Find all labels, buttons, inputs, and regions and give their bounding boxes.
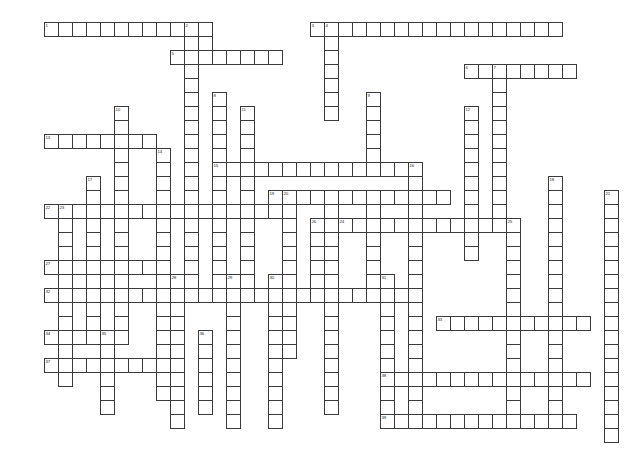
crossword-cell[interactable]: [198, 288, 213, 303]
crossword-cell[interactable]: [184, 232, 199, 247]
crossword-cell[interactable]: [408, 274, 423, 289]
crossword-cell[interactable]: [548, 260, 563, 275]
crossword-cell[interactable]: [464, 106, 479, 121]
crossword-cell[interactable]: [478, 372, 493, 387]
crossword-cell[interactable]: [114, 162, 129, 177]
crossword-cell[interactable]: [324, 316, 339, 331]
crossword-cell[interactable]: [380, 344, 395, 359]
crossword-cell[interactable]: [324, 260, 339, 275]
crossword-cell[interactable]: [380, 316, 395, 331]
crossword-cell[interactable]: [422, 372, 437, 387]
crossword-cell[interactable]: [44, 204, 59, 219]
crossword-cell[interactable]: [212, 218, 227, 233]
crossword-cell[interactable]: [478, 64, 493, 79]
crossword-cell[interactable]: [534, 414, 549, 429]
crossword-cell[interactable]: [492, 64, 507, 79]
crossword-cell[interactable]: [156, 190, 171, 205]
crossword-cell[interactable]: [422, 22, 437, 37]
crossword-cell[interactable]: [478, 414, 493, 429]
crossword-cell[interactable]: [58, 316, 73, 331]
crossword-cell[interactable]: [380, 400, 395, 415]
crossword-cell[interactable]: [240, 218, 255, 233]
crossword-cell[interactable]: [212, 274, 227, 289]
crossword-cell[interactable]: [142, 134, 157, 149]
crossword-cell[interactable]: [114, 218, 129, 233]
crossword-cell[interactable]: [212, 176, 227, 191]
crossword-cell[interactable]: [128, 134, 143, 149]
crossword-cell[interactable]: [366, 274, 381, 289]
crossword-cell[interactable]: [296, 190, 311, 205]
crossword-cell[interactable]: [464, 316, 479, 331]
crossword-cell[interactable]: [492, 134, 507, 149]
crossword-cell[interactable]: [464, 148, 479, 163]
crossword-cell[interactable]: [506, 358, 521, 373]
crossword-cell[interactable]: [240, 120, 255, 135]
crossword-cell[interactable]: [58, 246, 73, 261]
crossword-cell[interactable]: [114, 330, 129, 345]
crossword-cell[interactable]: [492, 120, 507, 135]
crossword-cell[interactable]: [240, 274, 255, 289]
crossword-cell[interactable]: [492, 316, 507, 331]
crossword-cell[interactable]: [548, 204, 563, 219]
crossword-cell[interactable]: [492, 92, 507, 107]
crossword-cell[interactable]: [184, 162, 199, 177]
crossword-cell[interactable]: [604, 246, 619, 261]
crossword-cell[interactable]: [142, 22, 157, 37]
crossword-cell[interactable]: [534, 316, 549, 331]
crossword-cell[interactable]: [86, 358, 101, 373]
crossword-cell[interactable]: [604, 386, 619, 401]
crossword-cell[interactable]: [352, 288, 367, 303]
crossword-cell[interactable]: [212, 148, 227, 163]
crossword-cell[interactable]: [492, 372, 507, 387]
crossword-cell[interactable]: [408, 302, 423, 317]
crossword-cell[interactable]: [282, 344, 297, 359]
crossword-cell[interactable]: [506, 22, 521, 37]
crossword-cell[interactable]: [394, 288, 409, 303]
crossword-cell[interactable]: [450, 218, 465, 233]
crossword-cell[interactable]: [366, 22, 381, 37]
crossword-cell[interactable]: [324, 288, 339, 303]
crossword-cell[interactable]: [576, 316, 591, 331]
crossword-cell[interactable]: [380, 162, 395, 177]
crossword-cell[interactable]: [170, 204, 185, 219]
crossword-cell[interactable]: [226, 50, 241, 65]
crossword-cell[interactable]: [450, 372, 465, 387]
crossword-cell[interactable]: [296, 162, 311, 177]
crossword-cell[interactable]: [240, 134, 255, 149]
crossword-cell[interactable]: [254, 288, 269, 303]
crossword-cell[interactable]: [240, 50, 255, 65]
crossword-cell[interactable]: [212, 120, 227, 135]
crossword-cell[interactable]: [212, 232, 227, 247]
crossword-cell[interactable]: [324, 400, 339, 415]
crossword-cell[interactable]: [226, 330, 241, 345]
crossword-cell[interactable]: [226, 372, 241, 387]
crossword-cell[interactable]: [72, 288, 87, 303]
crossword-cell[interactable]: [156, 148, 171, 163]
crossword-cell[interactable]: [436, 190, 451, 205]
crossword-cell[interactable]: [604, 428, 619, 443]
crossword-cell[interactable]: [310, 246, 325, 261]
crossword-cell[interactable]: [114, 106, 129, 121]
crossword-cell[interactable]: [548, 232, 563, 247]
crossword-cell[interactable]: [212, 204, 227, 219]
crossword-cell[interactable]: [198, 204, 213, 219]
crossword-cell[interactable]: [324, 358, 339, 373]
crossword-cell[interactable]: [170, 330, 185, 345]
crossword-cell[interactable]: [562, 64, 577, 79]
crossword-cell[interactable]: [156, 232, 171, 247]
crossword-cell[interactable]: [324, 246, 339, 261]
crossword-cell[interactable]: [100, 372, 115, 387]
crossword-cell[interactable]: [562, 316, 577, 331]
crossword-cell[interactable]: [226, 358, 241, 373]
crossword-cell[interactable]: [548, 176, 563, 191]
crossword-cell[interactable]: [506, 260, 521, 275]
crossword-cell[interactable]: [156, 344, 171, 359]
crossword-cell[interactable]: [436, 316, 451, 331]
crossword-cell[interactable]: [604, 260, 619, 275]
crossword-cell[interactable]: [548, 288, 563, 303]
crossword-cell[interactable]: [114, 302, 129, 317]
crossword-cell[interactable]: [282, 288, 297, 303]
crossword-cell[interactable]: [212, 162, 227, 177]
crossword-cell[interactable]: [198, 358, 213, 373]
crossword-cell[interactable]: [576, 372, 591, 387]
